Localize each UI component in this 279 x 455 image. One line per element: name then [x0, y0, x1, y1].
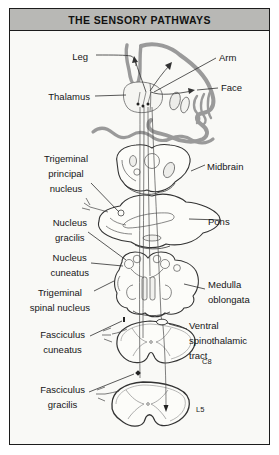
thalamus-drawing — [123, 82, 190, 114]
label-face: Face — [221, 80, 242, 95]
label-thalamus: Thalamus — [48, 89, 90, 104]
label-c8: C8 — [202, 357, 212, 366]
spinothalamic-ring — [157, 319, 168, 325]
label-trigeminal-spinal-nucleus: Trigeminal spinal nucleus — [30, 285, 90, 315]
label-fasciculus-cuneatus: Fasciculus cuneatus — [40, 327, 85, 357]
label-pons: Pons — [208, 214, 230, 229]
label-medulla-oblongata: Medulla oblongata — [208, 277, 250, 307]
label-ventral-spinothalamic-tract: Ventral spinothalamic tract — [189, 318, 247, 363]
pons-section — [82, 194, 220, 249]
sensory-pathways-figure: THE SENSORY PATHWAYS — [0, 0, 279, 455]
l5-section — [96, 382, 189, 426]
label-trigeminal-principal-nucleus: Trigeminal principal nucleus — [44, 151, 88, 196]
label-l5: L5 — [196, 405, 204, 414]
label-nucleus-cuneatus: Nucleus cuneatus — [50, 250, 89, 280]
label-fasciculus-gracilis: Fasciculus gracilis — [40, 382, 85, 412]
label-midbrain: Midbrain — [207, 159, 243, 174]
label-nucleus-gracilis: Nucleus gracilis — [53, 215, 87, 245]
label-arm: Arm — [219, 50, 236, 65]
label-leg: Leg — [72, 49, 88, 64]
